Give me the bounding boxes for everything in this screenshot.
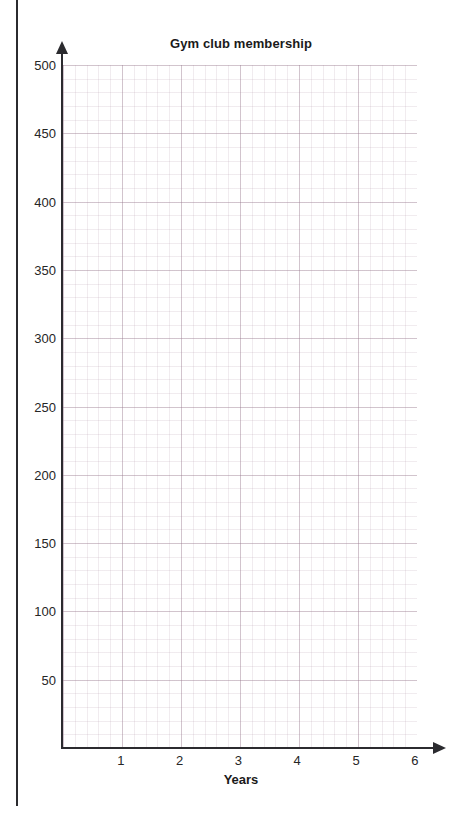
y-tick-label: 500: [4, 58, 56, 73]
x-tick-label: 1: [101, 753, 141, 768]
y-tick-label: 300: [4, 331, 56, 346]
y-tick-label: 100: [4, 604, 56, 619]
x-axis-arrow-icon: [433, 742, 446, 754]
x-axis-line: [62, 747, 436, 749]
x-tick-label: 5: [336, 753, 376, 768]
y-tick-label: 50: [4, 672, 56, 687]
chart-title: Gym club membership: [62, 36, 420, 51]
y-tick-label: 450: [4, 126, 56, 141]
chart-container: Gym club membership 50100150200250300350…: [0, 0, 462, 817]
x-tick-label: 3: [218, 753, 258, 768]
plot-grid-area: [63, 65, 417, 748]
x-tick-label: 2: [160, 753, 200, 768]
x-axis-title: Years: [62, 772, 420, 787]
y-axis-tick-labels: 50100150200250300350400450500: [0, 0, 56, 817]
y-tick-label: 250: [4, 399, 56, 414]
y-tick-label: 200: [4, 467, 56, 482]
y-axis-line: [61, 52, 63, 749]
y-tick-label: 400: [4, 194, 56, 209]
y-tick-label: 350: [4, 262, 56, 277]
x-tick-label: 4: [277, 753, 317, 768]
y-tick-label: 150: [4, 536, 56, 551]
x-tick-label: 6: [395, 753, 435, 768]
y-axis-arrow-icon: [56, 41, 68, 54]
